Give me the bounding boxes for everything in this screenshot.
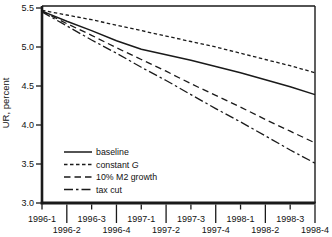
legend-item: constant G bbox=[64, 160, 139, 170]
x-tick-label: 1997-4 bbox=[202, 225, 230, 235]
y-axis: 3.03.54.04.55.05.5 bbox=[21, 3, 42, 208]
x-tick-label: 1998-2 bbox=[251, 225, 279, 235]
legend-label: tax cut bbox=[96, 185, 122, 195]
series-line-10-m2-growth bbox=[42, 11, 315, 143]
legend-item: baseline bbox=[64, 147, 129, 157]
y-tick-label: 5.5 bbox=[21, 3, 34, 13]
x-tick-label: 1998-4 bbox=[301, 225, 329, 235]
y-tick-label: 3.0 bbox=[21, 198, 34, 208]
y-tick-label: 4.0 bbox=[21, 120, 34, 130]
legend-label: constant G bbox=[96, 160, 139, 170]
plot-area: 3.03.54.04.55.05.51996-11996-21996-31996… bbox=[21, 3, 329, 234]
x-tick-label: 1996-3 bbox=[78, 214, 106, 224]
x-axis: 1996-11996-21996-31996-41997-11997-21997… bbox=[28, 205, 329, 235]
x-tick-label: 1997-3 bbox=[177, 214, 205, 224]
x-tick-label: 1997-1 bbox=[127, 214, 155, 224]
y-tick-label: 3.5 bbox=[21, 159, 34, 169]
legend-label: baseline bbox=[96, 147, 129, 157]
x-tick-label: 1998-3 bbox=[276, 214, 304, 224]
series-line-tax-cut bbox=[42, 12, 315, 163]
y-tick-label: 5.0 bbox=[21, 42, 34, 52]
series-line-constant-g bbox=[42, 10, 315, 72]
y-axis-title: UR, percent bbox=[0, 77, 11, 128]
legend: baselineconstant G10% M2 growthtax cut bbox=[64, 147, 157, 195]
legend-item: tax cut bbox=[64, 185, 122, 195]
x-tick-label: 1998-1 bbox=[227, 214, 255, 224]
legend-item: 10% M2 growth bbox=[64, 172, 157, 182]
x-tick-label: 1997-2 bbox=[152, 225, 180, 235]
x-tick-label: 1996-1 bbox=[28, 214, 56, 224]
legend-label: 10% M2 growth bbox=[96, 172, 157, 182]
chart-canvas: UR, percent 3.03.54.04.55.05.51996-11996… bbox=[0, 0, 332, 237]
unemployment-simulation-figure: UR, percent 3.03.54.04.55.05.51996-11996… bbox=[0, 0, 332, 237]
y-tick-label: 4.5 bbox=[21, 81, 34, 91]
x-tick-label: 1996-2 bbox=[53, 225, 81, 235]
series-line-baseline bbox=[42, 11, 315, 95]
x-tick-label: 1996-4 bbox=[102, 225, 130, 235]
